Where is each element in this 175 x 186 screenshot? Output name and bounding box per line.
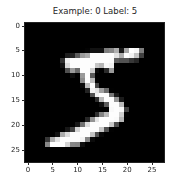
y-tick-label: 15 [0, 96, 20, 104]
y-tick [22, 150, 25, 151]
y-tick [22, 100, 25, 101]
x-tick-label: 15 [92, 166, 112, 174]
y-tick-label: 25 [0, 146, 20, 154]
y-tick [22, 50, 25, 51]
x-tick-label: 0 [18, 166, 38, 174]
y-tick-label: 0 [0, 22, 20, 30]
x-tick [28, 162, 29, 165]
image-plot-area [25, 23, 164, 162]
x-tick [127, 162, 128, 165]
x-tick-label: 20 [117, 166, 137, 174]
x-tick-label: 10 [68, 166, 88, 174]
y-tick [22, 26, 25, 27]
y-tick-label: 20 [0, 121, 20, 129]
y-tick [22, 125, 25, 126]
y-tick [22, 75, 25, 76]
x-tick-label: 5 [43, 166, 63, 174]
chart-title: Example: 0 Label: 5 [25, 6, 165, 16]
x-tick [52, 162, 53, 165]
x-tick [152, 162, 153, 165]
y-tick-label: 10 [0, 71, 20, 79]
y-tick-label: 5 [0, 46, 20, 54]
x-tick [77, 162, 78, 165]
x-tick-label: 25 [142, 166, 162, 174]
x-tick [102, 162, 103, 165]
digit-image [25, 23, 164, 162]
